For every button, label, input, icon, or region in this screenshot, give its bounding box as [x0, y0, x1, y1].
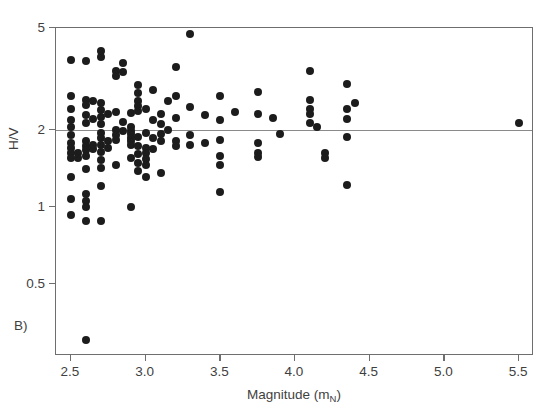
x-axis-tick: [518, 355, 519, 361]
data-point: [119, 118, 127, 126]
data-point: [157, 137, 165, 145]
data-point: [82, 336, 90, 344]
data-point: [186, 103, 194, 111]
data-point: [82, 152, 90, 160]
data-point: [82, 203, 90, 211]
data-point: [97, 156, 105, 164]
data-point: [112, 136, 120, 144]
data-point: [134, 150, 142, 158]
data-point: [254, 139, 262, 147]
data-point: [306, 67, 314, 75]
data-point: [104, 144, 112, 152]
data-point: [149, 116, 157, 124]
data-point: [67, 56, 75, 64]
data-point: [351, 99, 359, 107]
data-point: [97, 120, 105, 128]
x-axis-tick: [443, 355, 444, 361]
x-axis-title-tail: ): [336, 387, 341, 402]
data-point: [119, 59, 127, 67]
x-axis-tick-label: 3.0: [135, 364, 154, 379]
data-point: [134, 107, 142, 115]
x-axis-tick-label: 3.5: [210, 364, 229, 379]
data-point: [157, 110, 165, 118]
x-axis-tick-label: 5.0: [434, 364, 453, 379]
data-point: [172, 142, 180, 150]
data-point: [157, 169, 165, 177]
data-point: [97, 164, 105, 172]
data-point: [134, 159, 142, 167]
data-point: [231, 108, 239, 116]
y-axis-tick-label: 2: [37, 121, 45, 136]
data-point: [112, 161, 120, 169]
panel-label: B): [14, 318, 28, 333]
data-point: [343, 115, 351, 123]
data-point: [254, 153, 262, 161]
data-point: [164, 97, 172, 105]
data-point: [216, 116, 224, 124]
data-point: [82, 165, 90, 173]
data-point: [343, 181, 351, 189]
data-point: [142, 161, 150, 169]
y-axis-tick: [49, 206, 55, 207]
data-point: [142, 105, 150, 113]
data-point: [254, 110, 262, 118]
data-point: [67, 92, 75, 100]
x-axis-title: Magnitude (mN): [55, 387, 533, 402]
x-axis-tick: [70, 355, 71, 361]
y-axis-tick-label: 5: [37, 20, 45, 35]
x-axis-tick-label: 4.5: [359, 364, 378, 379]
data-point: [97, 217, 105, 225]
data-point: [67, 211, 75, 219]
data-point: [276, 130, 284, 138]
data-point: [186, 141, 194, 149]
scatter-figure: 5210.5 2.53.03.54.04.55.05.5 Magnitude (…: [0, 0, 553, 420]
data-point: [67, 173, 75, 181]
data-point: [201, 139, 209, 147]
data-point: [149, 134, 157, 142]
data-point: [172, 114, 180, 122]
data-point: [172, 92, 180, 100]
x-axis-tick: [294, 355, 295, 361]
data-point: [134, 167, 142, 175]
data-point: [216, 152, 224, 160]
data-point: [82, 57, 90, 65]
y-axis-title: H/V: [6, 127, 21, 150]
data-point: [343, 105, 351, 113]
data-point: [142, 173, 150, 181]
data-point: [343, 133, 351, 141]
data-point: [149, 145, 157, 153]
data-point: [321, 154, 329, 162]
x-axis-tick-label: 4.0: [285, 364, 304, 379]
data-point: [306, 96, 314, 104]
y-axis-tick: [49, 27, 55, 28]
data-point: [306, 110, 314, 118]
data-point: [134, 133, 142, 141]
y-axis-tick: [49, 283, 55, 284]
x-axis-tick-label: 2.5: [61, 364, 80, 379]
data-point: [112, 108, 120, 116]
x-axis-tick-label: 5.5: [509, 364, 528, 379]
x-axis-tick: [219, 355, 220, 361]
data-point: [97, 53, 105, 61]
data-point: [67, 123, 75, 131]
data-point: [97, 182, 105, 190]
data-point: [269, 114, 277, 122]
x-axis-title-base: Magnitude (m: [247, 387, 330, 402]
data-point: [82, 217, 90, 225]
data-point: [127, 203, 135, 211]
data-point: [186, 131, 194, 139]
data-point: [157, 120, 165, 128]
data-point: [515, 119, 523, 127]
y-axis-labels: 5210.5: [0, 0, 45, 420]
data-point: [164, 126, 172, 134]
y-axis-tick-label: 1: [37, 198, 45, 213]
data-point: [186, 30, 194, 38]
x-axis-tick: [369, 355, 370, 361]
data-point: [216, 161, 224, 169]
data-point: [67, 105, 75, 113]
x-axis-title-subscript: N: [330, 393, 337, 404]
data-point: [134, 142, 142, 150]
plot-frame: [55, 27, 533, 355]
y-axis-tick: [49, 129, 55, 130]
data-point: [216, 136, 224, 144]
